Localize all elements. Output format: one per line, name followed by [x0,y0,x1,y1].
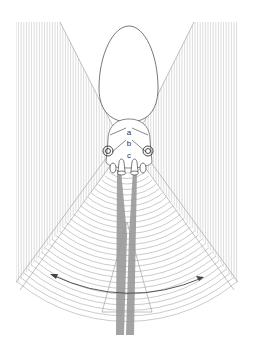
diagram: a b c [0,0,254,350]
label-c: c [127,151,131,160]
label-b: b [127,139,132,148]
head-outline [99,26,158,122]
label-a: a [127,128,132,137]
